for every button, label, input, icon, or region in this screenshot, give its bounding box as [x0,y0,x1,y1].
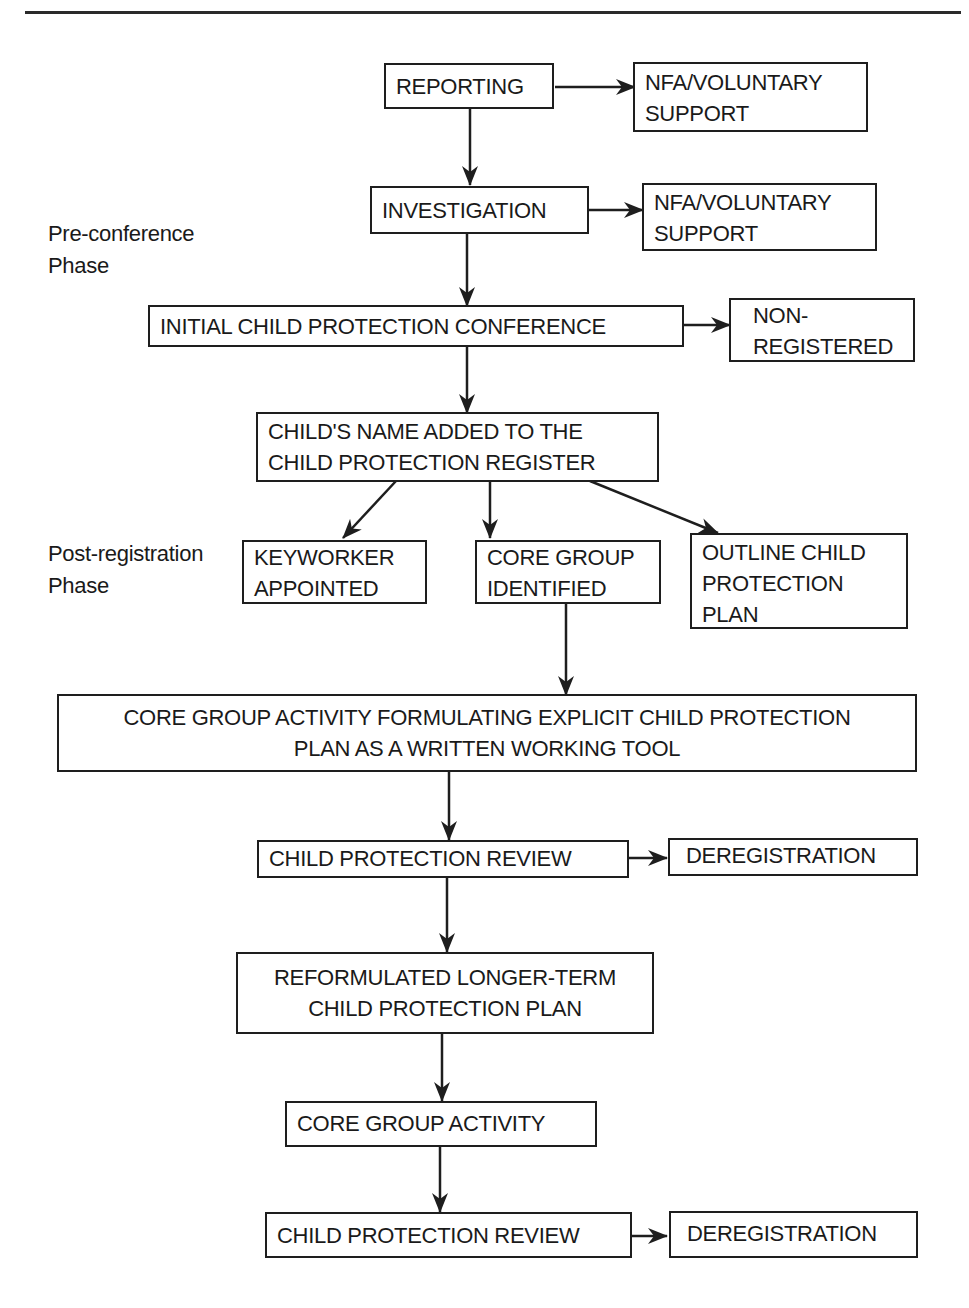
node-non-registered: NON- REGISTERED [729,298,915,362]
node-nfa-voluntary-support-2: NFA/VOLUNTARY SUPPORT [642,183,877,251]
phase-label-pre-conference: Pre-conference Phase [48,218,194,282]
node-deregistration-1: DEREGISTRATION [668,838,918,876]
node-core-group-identified: CORE GROUP IDENTIFIED [475,540,661,604]
node-core-group-activity: CORE GROUP ACTIVITY [285,1101,597,1147]
node-core-group-activity-formulating-plan: CORE GROUP ACTIVITY FORMULATING EXPLICIT… [57,694,917,772]
node-childs-name-added-to-register: CHILD'S NAME ADDED TO THE CHILD PROTECTI… [256,412,659,482]
node-reporting: REPORTING [384,63,554,109]
node-child-protection-review-1: CHILD PROTECTION REVIEW [257,840,629,878]
node-keyworker-appointed: KEYWORKER APPOINTED [242,540,427,604]
node-deregistration-2: DEREGISTRATION [669,1211,918,1258]
node-reformulated-longer-term-plan: REFORMULATED LONGER-TERM CHILD PROTECTIO… [236,952,654,1034]
node-child-protection-review-2: CHILD PROTECTION REVIEW [265,1212,632,1258]
node-initial-child-protection-conference: INITIAL CHILD PROTECTION CONFERENCE [148,305,684,347]
node-outline-child-protection-plan: OUTLINE CHILD PROTECTION PLAN [690,533,908,629]
phase-label-post-registration: Post-registration Phase [48,538,203,602]
node-nfa-voluntary-support-1: NFA/VOLUNTARY SUPPORT [633,62,868,132]
node-investigation: INVESTIGATION [370,186,589,234]
